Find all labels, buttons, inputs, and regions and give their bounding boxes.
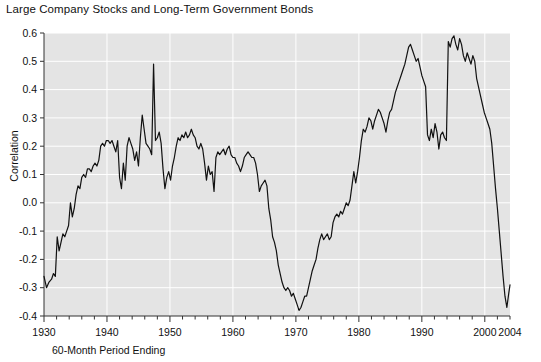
- x-tick-label: 2000: [473, 326, 497, 338]
- x-axis-tick-labels: 193019401950196019701980199020002004: [32, 326, 522, 338]
- x-tick-label: 1930: [32, 326, 56, 338]
- x-tick-label: 1970: [284, 326, 308, 338]
- y-tick-label: 0.4: [22, 83, 37, 95]
- x-tick-label: 2004: [498, 326, 522, 338]
- x-axis-ticks: [44, 316, 510, 322]
- y-tick-label: -0.4: [19, 310, 37, 322]
- x-tick-label: 1960: [221, 326, 245, 338]
- y-tick-label: 0.2: [22, 140, 37, 152]
- y-axis-tick-labels: 0.60.50.40.30.20.10.0-0.1-0.2-0.3-0.4: [19, 27, 37, 322]
- y-tick-label: 0.6: [22, 27, 37, 39]
- chart-container: Large Company Stocks and Long-Term Gover…: [0, 0, 541, 362]
- y-tick-label: -0.3: [19, 281, 37, 293]
- x-tick-label: 1980: [347, 326, 371, 338]
- chart-plot: 0.60.50.40.30.20.10.0-0.1-0.2-0.3-0.4 19…: [0, 0, 541, 362]
- y-tick-label: 0.0: [22, 196, 37, 208]
- y-axis-ticks: [40, 33, 44, 316]
- y-tick-label: -0.2: [19, 253, 37, 265]
- x-tick-label: 1990: [410, 326, 434, 338]
- y-tick-label: 0.1: [22, 168, 37, 180]
- x-tick-label: 1940: [95, 326, 119, 338]
- x-tick-label: 1950: [158, 326, 182, 338]
- y-tick-label: 0.3: [22, 112, 37, 124]
- y-tick-label: -0.1: [19, 225, 37, 237]
- y-tick-label: 0.5: [22, 55, 37, 67]
